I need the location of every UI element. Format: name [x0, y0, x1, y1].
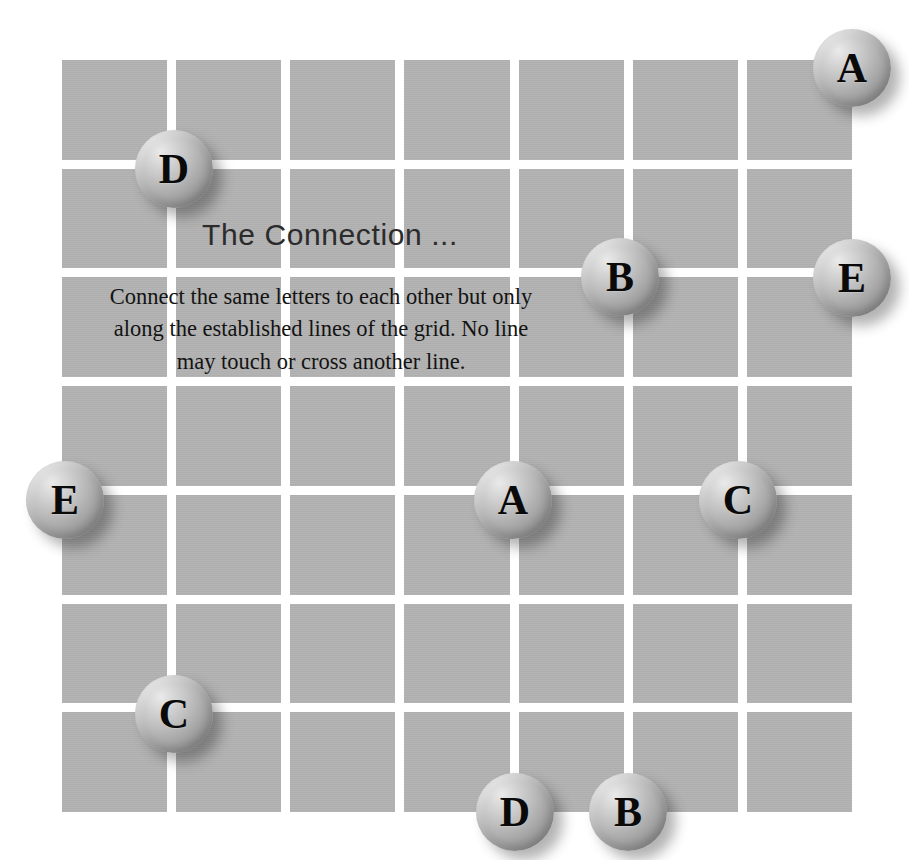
letter-token-d[interactable]: D: [135, 130, 213, 208]
grid-cell[interactable]: [404, 277, 509, 377]
letter-token-b[interactable]: B: [589, 773, 667, 851]
grid-cell[interactable]: [62, 277, 167, 377]
letter-token-a[interactable]: A: [813, 29, 891, 107]
letter-token-c[interactable]: C: [699, 461, 777, 539]
grid-cell[interactable]: [404, 169, 509, 269]
letter-token-a[interactable]: A: [474, 461, 552, 539]
grid-cell[interactable]: [633, 60, 738, 160]
grid-cell[interactable]: [290, 277, 395, 377]
letter-token-e[interactable]: E: [813, 239, 891, 317]
letter-token-label: A: [498, 479, 528, 521]
grid-cell[interactable]: [176, 495, 281, 595]
letter-token-label: A: [837, 47, 867, 89]
letter-token-e[interactable]: E: [26, 461, 104, 539]
grid-cell[interactable]: [176, 386, 281, 486]
grid-cell[interactable]: [633, 604, 738, 704]
grid-cell[interactable]: [404, 604, 509, 704]
letter-token-c[interactable]: C: [135, 675, 213, 753]
grid-cell[interactable]: [290, 604, 395, 704]
grid-cell[interactable]: [290, 169, 395, 269]
puzzle-canvas: The Connection ... Connect the same lett…: [0, 0, 909, 860]
letter-token-label: C: [159, 693, 189, 735]
grid-cell[interactable]: [290, 386, 395, 486]
grid-cell[interactable]: [290, 495, 395, 595]
grid-cell[interactable]: [519, 604, 624, 704]
grid-cell[interactable]: [747, 604, 852, 704]
grid-cell[interactable]: [519, 60, 624, 160]
letter-token-label: E: [51, 479, 79, 521]
letter-token-label: E: [838, 257, 866, 299]
letter-token-label: B: [614, 791, 642, 833]
grid-cell[interactable]: [404, 60, 509, 160]
letter-token-d[interactable]: D: [476, 773, 554, 851]
letter-token-label: D: [500, 791, 530, 833]
letter-token-b[interactable]: B: [581, 238, 659, 316]
grid-cell[interactable]: [290, 60, 395, 160]
grid-cell[interactable]: [290, 712, 395, 812]
letter-token-label: B: [606, 256, 634, 298]
letter-token-label: D: [159, 148, 189, 190]
grid-cell[interactable]: [747, 712, 852, 812]
letter-token-label: C: [723, 479, 753, 521]
grid-cell[interactable]: [176, 277, 281, 377]
